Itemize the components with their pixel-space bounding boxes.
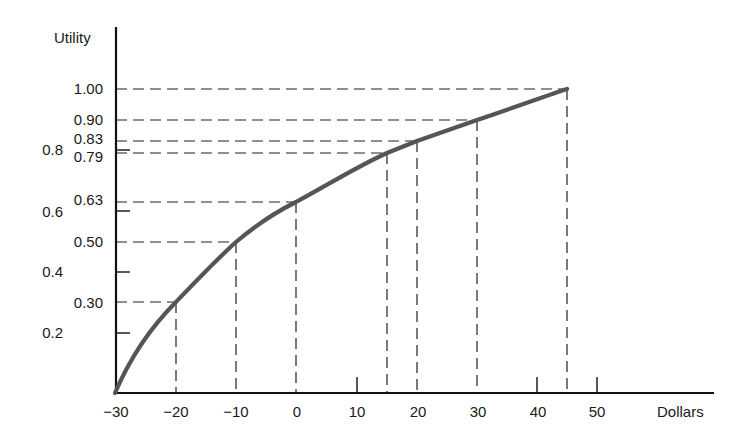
y-label-0.50: 0.50	[43, 234, 103, 249]
x-axis-title: Dollars	[657, 404, 704, 419]
x-label-minus10: −10	[216, 404, 256, 419]
x-label-30: 30	[458, 404, 498, 419]
utility-chart	[0, 0, 746, 441]
y-label-0.6: 0.6	[23, 204, 63, 219]
x-label-10: 10	[337, 404, 377, 419]
y-label-0.2: 0.2	[23, 325, 63, 340]
x-label-0: 0	[277, 404, 317, 419]
y-label-0.90: 0.90	[43, 112, 103, 127]
y-axis-title: Utility	[54, 30, 91, 45]
x-label-minus20: −20	[156, 404, 196, 419]
horizontal-reference-lines	[116, 89, 567, 302]
y-label-0.30: 0.30	[43, 295, 103, 310]
x-label-20: 20	[398, 404, 438, 419]
y-label-0.8: 0.8	[23, 142, 63, 157]
utility-curve	[115, 89, 567, 393]
axes	[115, 27, 714, 394]
y-label-0.4: 0.4	[23, 264, 63, 279]
y-label-1.00: 1.00	[43, 81, 103, 96]
x-label-minus30: −30	[96, 404, 136, 419]
x-label-40: 40	[518, 404, 558, 419]
x-label-50: 50	[577, 404, 617, 419]
